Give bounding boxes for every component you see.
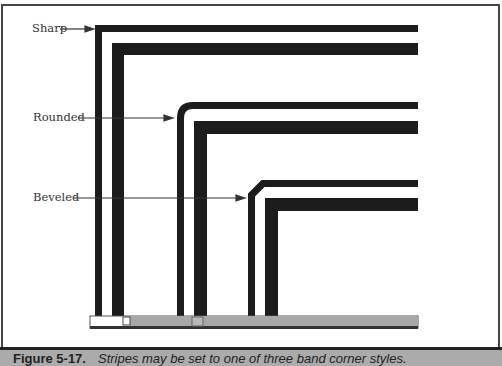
figure-number: Figure 5-17. — [13, 351, 86, 366]
sharp-outer-stripe — [99, 29, 419, 317]
horizontal-scrollbar[interactable] — [90, 316, 418, 329]
rounded-inner-stripe — [201, 128, 419, 317]
scroll-left-button — [123, 317, 130, 325]
figure-caption: Figure 5-17.Stripes may be set to one of… — [13, 351, 407, 366]
label-rounded: Rounded — [33, 110, 85, 124]
scrollbar-thumb — [192, 317, 203, 326]
stripes-diagram — [0, 0, 502, 366]
beveled-inner-stripe — [272, 205, 419, 317]
label-sharp: Sharp — [32, 21, 67, 35]
label-beveled: Beveled — [33, 190, 79, 204]
caption-text: Stripes may be set to one of three band … — [98, 351, 407, 366]
